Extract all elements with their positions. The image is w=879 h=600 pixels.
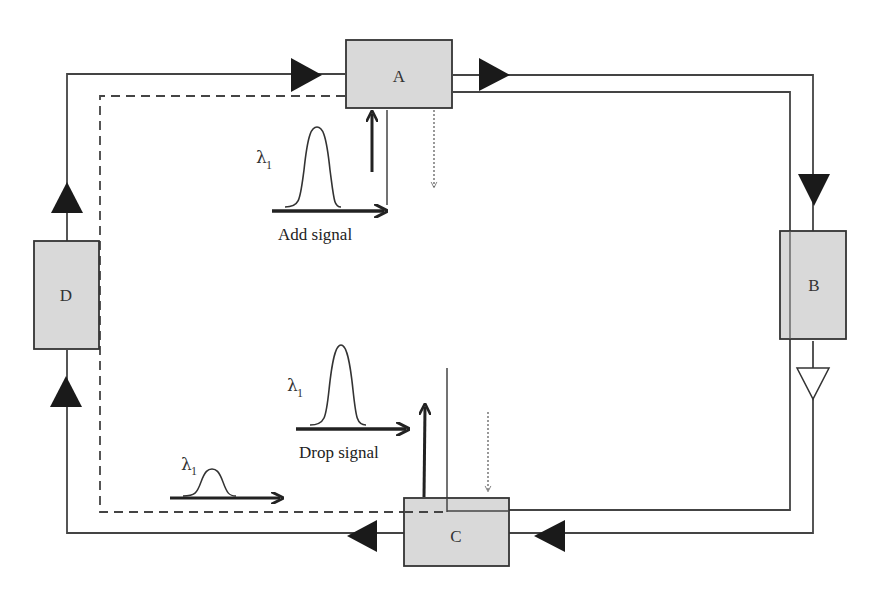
arrow-down-outline-icon xyxy=(797,368,829,399)
node-d-label: D xyxy=(60,286,72,305)
arrow-left-icon xyxy=(534,520,565,552)
node-a[interactable]: A xyxy=(346,40,452,108)
ring-network-diagram: A B C D λ 1 Add signal xyxy=(0,0,879,600)
drop-pulse-icon xyxy=(310,345,366,425)
add-pulse-icon xyxy=(285,127,341,207)
add-signal: λ 1 Add signal xyxy=(256,110,434,244)
node-c-label: C xyxy=(450,527,461,546)
node-d[interactable]: D xyxy=(34,241,99,349)
svg-text:1: 1 xyxy=(266,158,272,172)
inner-ring xyxy=(448,92,790,510)
arrow-up-icon xyxy=(51,182,83,213)
svg-text:1: 1 xyxy=(297,386,303,400)
node-b-label: B xyxy=(808,276,819,295)
inner-ring-dashed xyxy=(100,96,448,512)
arrow-right-icon xyxy=(479,58,510,91)
svg-text:1: 1 xyxy=(191,464,197,478)
passthrough-signal: λ 1 xyxy=(170,454,280,498)
drop-signal: λ 1 Drop signal xyxy=(287,345,488,497)
arrow-left-icon xyxy=(347,520,377,552)
direction-arrows xyxy=(50,58,830,552)
node-c[interactable]: C xyxy=(404,498,509,566)
node-a-label: A xyxy=(393,67,406,86)
outer-ring xyxy=(67,74,813,533)
drop-signal-label: Drop signal xyxy=(299,443,379,462)
drop-up-arrow xyxy=(424,407,425,497)
arrow-down-icon xyxy=(798,174,830,206)
arrow-up-icon xyxy=(50,376,82,407)
arrow-right-icon xyxy=(291,58,322,92)
add-signal-label: Add signal xyxy=(278,225,352,244)
